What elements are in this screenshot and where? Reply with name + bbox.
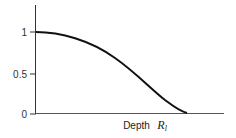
data-curve (36, 32, 187, 113)
y-tick-label-0: 0 (21, 109, 27, 120)
y-tick-label-1: 1 (21, 27, 27, 38)
y-tick-label-0.5: 0.5 (13, 69, 27, 80)
chart: 1 0.5 0 Depth Rl (0, 0, 236, 138)
x-axis-label: Depth Rl (123, 115, 167, 133)
